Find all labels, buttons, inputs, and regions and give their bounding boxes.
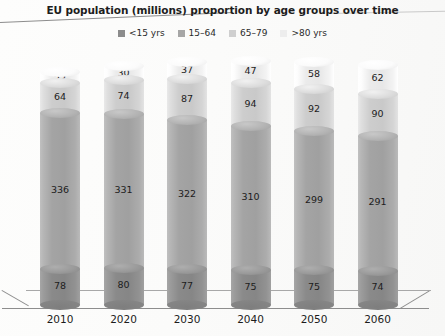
- bar-segment-body: [40, 113, 80, 269]
- x-tick-label-2050: 2050: [284, 313, 344, 325]
- bar-segment-body: [294, 131, 334, 270]
- bar-segment-body: [104, 114, 144, 268]
- bar-base-ellipse: [358, 300, 398, 310]
- chart-container: EU population (millions) proportion by a…: [0, 0, 445, 336]
- bar-segment[interactable]: 322: [167, 120, 207, 269]
- bar-segment-cap: [104, 263, 144, 273]
- bar-stack: 589229975: [294, 62, 334, 305]
- bar-stack: 378732277: [167, 62, 207, 305]
- bar-stack: 629029174: [358, 65, 398, 305]
- bar-segment[interactable]: 90: [358, 94, 398, 136]
- bar-column-2030[interactable]: 378732277: [167, 62, 207, 305]
- bar-segment-cap: [104, 61, 144, 71]
- bar-segment-body: [231, 83, 271, 127]
- bar-segment-cap: [231, 56, 271, 66]
- bar-base-ellipse: [231, 300, 271, 310]
- bar-segment[interactable]: 92: [294, 89, 334, 132]
- x-tick-label-2010: 2010: [30, 313, 90, 325]
- bar-column-2050[interactable]: 589229975: [294, 62, 334, 305]
- bar-stack: 479431075: [231, 61, 271, 305]
- bar-column-2020[interactable]: 307433180: [104, 66, 144, 305]
- bar-segment-cap: [358, 266, 398, 276]
- bar-segment-cap: [104, 75, 144, 85]
- x-tick-label-2030: 2030: [157, 313, 217, 325]
- x-tick-label-2020: 2020: [94, 313, 154, 325]
- bar-segment-cap: [40, 108, 80, 118]
- bar-segment-body: [294, 89, 334, 132]
- bar-segment-cap: [40, 264, 80, 274]
- bar-segment[interactable]: 299: [294, 131, 334, 270]
- x-tick-label-2040: 2040: [221, 313, 281, 325]
- plot-area: 2364336783074331803787322774794310755892…: [0, 0, 445, 336]
- bar-segment-cap: [167, 115, 207, 125]
- bar-base-ellipse: [40, 300, 80, 310]
- bar-segment[interactable]: 94: [231, 83, 271, 127]
- bar-segment-cap: [358, 60, 398, 70]
- bar-segment[interactable]: 336: [40, 113, 80, 269]
- x-axis: 201020202030204020502060: [0, 313, 445, 333]
- bar-column-2010[interactable]: 236433678: [40, 72, 80, 305]
- bar-segment[interactable]: 310: [231, 126, 271, 270]
- bar-base-ellipse: [294, 300, 334, 310]
- bar-segment-cap: [294, 57, 334, 67]
- bar-segment-cap: [294, 84, 334, 94]
- bar-segment[interactable]: 291: [358, 136, 398, 271]
- bar-segment[interactable]: 87: [167, 79, 207, 119]
- x-tick-label-2060: 2060: [348, 313, 408, 325]
- bar-segment-cap: [231, 78, 271, 88]
- bar-base-ellipse: [104, 300, 144, 310]
- bar-column-2060[interactable]: 629029174: [358, 65, 398, 305]
- bar-segment-cap: [358, 89, 398, 99]
- bar-segment-body: [231, 126, 271, 270]
- bar-stack: 307433180: [104, 66, 144, 305]
- bar-segment-body: [358, 94, 398, 136]
- bar-segment-body: [358, 136, 398, 271]
- bar-stack: 236433678: [40, 72, 80, 305]
- bar-segment[interactable]: 331: [104, 114, 144, 268]
- bar-segment-cap: [358, 131, 398, 141]
- bar-segment-body: [167, 120, 207, 269]
- bar-base-ellipse: [167, 300, 207, 310]
- bar-column-2040[interactable]: 479431075: [231, 61, 271, 305]
- bar-segment-body: [167, 79, 207, 119]
